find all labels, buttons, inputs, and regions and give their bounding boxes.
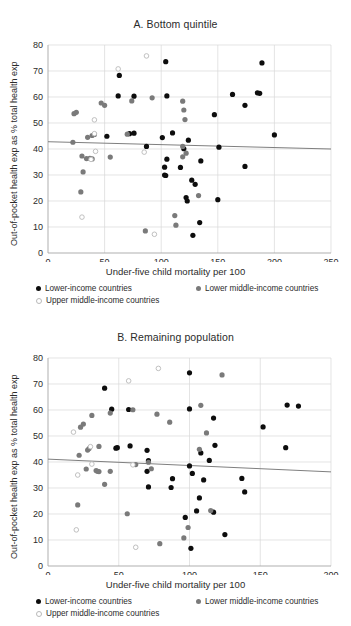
legend-marker-upper-middle-income-icon bbox=[36, 298, 42, 304]
svg-text:150: 150 bbox=[253, 570, 268, 575]
svg-text:60: 60 bbox=[33, 92, 43, 102]
panel-b-svg: 01020304050607080050100150200 bbox=[0, 313, 351, 575]
panel-a-plot-area: 01020304050607080050100150200250 bbox=[0, 0, 351, 260]
legend-marker-upper-middle-income-icon bbox=[36, 611, 42, 617]
legend-item-upper-middle-income: Upper middle-income countries bbox=[36, 296, 159, 305]
svg-text:70: 70 bbox=[33, 379, 43, 389]
legend-item-lower-income: Lower-income countries bbox=[36, 597, 132, 606]
svg-text:200: 200 bbox=[267, 257, 282, 262]
legend-marker-lower-income-icon bbox=[36, 286, 41, 291]
panel-b-x-axis-label: Under-five child mortality per 100 bbox=[0, 579, 351, 590]
svg-text:50: 50 bbox=[33, 431, 43, 441]
svg-text:80: 80 bbox=[33, 40, 43, 50]
svg-text:20: 20 bbox=[33, 509, 43, 519]
svg-text:0: 0 bbox=[45, 257, 50, 262]
legend-marker-lower-middle-income-icon bbox=[196, 286, 201, 291]
svg-text:60: 60 bbox=[33, 405, 43, 415]
legend-marker-lower-income-icon bbox=[36, 599, 41, 604]
panel-a-legend: Lower-income countries Lower middle-inco… bbox=[0, 284, 351, 308]
svg-text:150: 150 bbox=[210, 257, 225, 262]
legend-item-lower-middle-income: Lower middle-income countries bbox=[196, 284, 318, 293]
legend-label-lower-income: Lower-income countries bbox=[45, 284, 132, 293]
legend-label-lower-middle-income: Lower middle-income countries bbox=[205, 597, 318, 606]
legend-label-lower-middle-income: Lower middle-income countries bbox=[205, 284, 318, 293]
legend-marker-lower-middle-income-icon bbox=[196, 599, 201, 604]
svg-text:250: 250 bbox=[323, 257, 338, 262]
legend-item-upper-middle-income: Upper middle-income countries bbox=[36, 609, 159, 618]
svg-text:0: 0 bbox=[45, 570, 50, 575]
svg-text:40: 40 bbox=[33, 457, 43, 467]
svg-text:100: 100 bbox=[182, 570, 197, 575]
chart-panel-a: A. Bottom quintile Out-of-pocket health … bbox=[0, 0, 351, 313]
svg-text:40: 40 bbox=[33, 144, 43, 154]
svg-text:10: 10 bbox=[33, 535, 43, 545]
panel-a-x-axis-label: Under-five child mortality per 100 bbox=[0, 266, 351, 277]
svg-text:50: 50 bbox=[114, 570, 124, 575]
svg-text:70: 70 bbox=[33, 66, 43, 76]
svg-text:20: 20 bbox=[33, 196, 43, 206]
svg-text:50: 50 bbox=[33, 118, 43, 128]
legend-item-lower-income: Lower-income countries bbox=[36, 284, 132, 293]
panel-b-legend: Lower-income countries Lower middle-inco… bbox=[0, 597, 351, 621]
legend-label-upper-middle-income: Upper middle-income countries bbox=[46, 609, 159, 618]
svg-text:0: 0 bbox=[38, 248, 43, 258]
svg-text:100: 100 bbox=[154, 257, 169, 262]
svg-text:30: 30 bbox=[33, 170, 43, 180]
svg-text:30: 30 bbox=[33, 483, 43, 493]
chart-panel-b: B. Remaining population Out-of-pocket he… bbox=[0, 313, 351, 626]
legend-label-lower-income: Lower-income countries bbox=[45, 597, 132, 606]
svg-text:50: 50 bbox=[100, 257, 110, 262]
svg-text:0: 0 bbox=[38, 561, 43, 571]
panel-a-svg: 01020304050607080050100150200250 bbox=[0, 0, 351, 262]
legend-label-upper-middle-income: Upper middle-income countries bbox=[46, 296, 159, 305]
svg-text:80: 80 bbox=[33, 353, 43, 363]
legend-item-lower-middle-income: Lower middle-income countries bbox=[196, 597, 318, 606]
panel-b-plot-area: 01020304050607080050100150200 bbox=[0, 313, 351, 573]
svg-text:200: 200 bbox=[323, 570, 338, 575]
svg-text:10: 10 bbox=[33, 222, 43, 232]
